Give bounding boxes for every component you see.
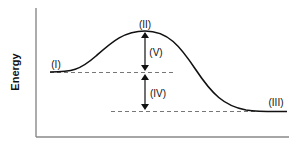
- energy-diagram: [0, 0, 308, 144]
- label-products: (III): [269, 97, 284, 108]
- label-activation-energy: (V): [149, 47, 162, 58]
- label-reaction-energy: (IV): [150, 88, 166, 99]
- y-axis-label: Energy: [9, 53, 21, 90]
- label-transition-state: (II): [139, 19, 151, 30]
- label-reactants: (I): [51, 59, 60, 70]
- energy-curve: [50, 31, 287, 112]
